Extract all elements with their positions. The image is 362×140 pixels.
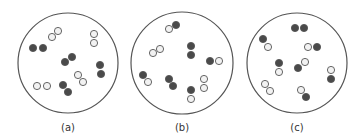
light-atom [144, 78, 151, 85]
dark-atom [327, 75, 334, 82]
light-atom [275, 68, 282, 75]
dark-atom [96, 61, 103, 68]
molecule [327, 66, 334, 82]
molecule [165, 21, 179, 32]
dark-atom [64, 88, 71, 95]
dark-atom [172, 21, 179, 28]
molecule [165, 75, 176, 89]
molecule [200, 75, 207, 91]
molecule [294, 58, 308, 71]
dark-atom [313, 43, 320, 50]
molecule [61, 53, 75, 65]
panel-label: (a) [61, 122, 75, 133]
light-atom [90, 39, 97, 46]
dark-atom [39, 44, 46, 51]
dark-atom [259, 35, 266, 42]
light-atom [261, 80, 268, 87]
dark-atom [291, 24, 298, 31]
dark-atom [302, 93, 309, 100]
dark-atom [294, 64, 301, 71]
molecule [29, 44, 46, 51]
light-atom [187, 95, 194, 102]
light-atom [304, 43, 311, 50]
molecule [187, 86, 194, 102]
light-atom [54, 27, 61, 34]
dark-atom [275, 59, 282, 66]
light-atom [165, 25, 172, 32]
light-atom [327, 66, 334, 73]
panel-label: (b) [175, 122, 189, 133]
light-atom [43, 82, 50, 89]
molecule [48, 27, 61, 40]
panel-a: (a) [18, 13, 118, 133]
molecule [259, 35, 271, 50]
molecule [291, 24, 307, 31]
molecule-diagram: (a)(b)(c) [0, 0, 362, 140]
dark-atom [169, 82, 176, 89]
molecule [90, 30, 97, 46]
light-atom [215, 57, 222, 64]
molecule [149, 45, 163, 56]
dark-atom [97, 70, 104, 77]
dark-atom [68, 53, 75, 60]
light-atom [200, 75, 207, 82]
dark-atom [59, 81, 66, 88]
light-atom [200, 84, 207, 91]
molecule [59, 81, 71, 95]
panel-label: (c) [290, 122, 303, 133]
molecule [139, 71, 151, 85]
light-atom [33, 82, 40, 89]
molecule [275, 59, 282, 75]
molecule [96, 61, 104, 77]
panel-b: (b) [131, 12, 233, 133]
dark-atom [187, 42, 194, 49]
dark-atom [206, 57, 213, 64]
molecule [206, 57, 222, 64]
dark-atom [187, 51, 194, 58]
light-atom [79, 78, 86, 85]
light-atom [74, 71, 81, 78]
light-atom [149, 49, 156, 56]
light-atom [266, 87, 273, 94]
panels-group: (a)(b)(c) [18, 12, 347, 133]
molecule [304, 43, 320, 50]
molecule [187, 42, 194, 58]
light-atom [48, 33, 55, 40]
light-atom [297, 86, 304, 93]
panel-c: (c) [247, 13, 347, 133]
dark-atom [61, 58, 68, 65]
molecule [33, 82, 50, 89]
light-atom [301, 58, 308, 65]
light-atom [90, 30, 97, 37]
molecule [261, 80, 273, 94]
dark-atom [165, 75, 172, 82]
dark-atom [300, 24, 307, 31]
light-atom [156, 45, 163, 52]
dark-atom [139, 71, 146, 78]
molecule [74, 71, 86, 85]
light-atom [264, 43, 271, 50]
molecule [297, 86, 309, 100]
dark-atom [187, 86, 194, 93]
dark-atom [29, 44, 36, 51]
